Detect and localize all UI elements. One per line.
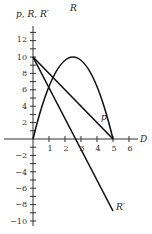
y-tick-neg6: −6 xyxy=(15,184,27,193)
y-axis-label: p, R, R′ xyxy=(16,9,49,19)
series-r-label: R xyxy=(69,3,77,13)
chart-canvas: 1 2 3 4 5 6 12 10 8 6 4 2 xyxy=(0,0,152,234)
x-tick-1: 1 xyxy=(47,144,52,153)
y-tick-12: 12 xyxy=(17,35,27,44)
x-tick-4: 4 xyxy=(95,144,100,153)
y-tick-neg10: −10 xyxy=(10,217,27,226)
x-tick-labels: 1 2 3 4 5 6 xyxy=(47,144,132,153)
y-tick-4: 4 xyxy=(22,102,27,111)
y-tick-labels: 12 10 8 6 4 2 −2 −4 −6 −8 −10 xyxy=(10,35,27,226)
y-tick-2: 2 xyxy=(22,118,27,127)
x-tick-6: 6 xyxy=(127,144,132,153)
x-axis-label: D xyxy=(139,134,147,144)
y-tick-neg2: −2 xyxy=(15,151,27,160)
y-tick-8: 8 xyxy=(22,69,27,78)
x-tick-5: 5 xyxy=(111,144,116,153)
y-tick-neg4: −4 xyxy=(15,168,27,177)
series-rprime-line xyxy=(33,57,113,211)
y-tick-10: 10 xyxy=(17,53,27,62)
y-tick-neg8: −8 xyxy=(15,200,27,209)
series-rprime-label: R′ xyxy=(115,202,125,212)
x-tick-2: 2 xyxy=(63,144,68,153)
y-tick-6: 6 xyxy=(22,85,27,94)
